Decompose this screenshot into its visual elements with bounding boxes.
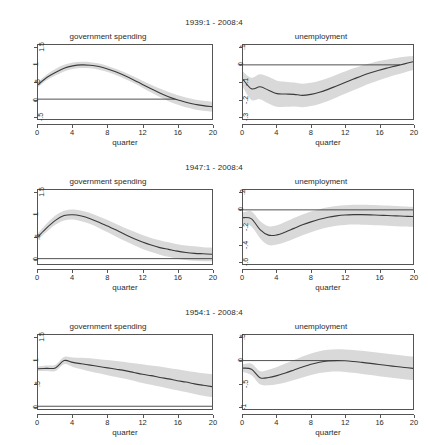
y-tick-label: 0 bbox=[32, 259, 39, 263]
x-tick-label: 20 bbox=[410, 128, 418, 137]
x-tick-label: 16 bbox=[174, 273, 182, 282]
y-tick-text: -.2 bbox=[242, 223, 249, 231]
panel-unemployment-row2: unemployment-.6-.4-.20.2048121620quarter bbox=[214, 177, 428, 297]
x-tick-label: 4 bbox=[70, 273, 74, 282]
x-tick-label: 8 bbox=[309, 128, 313, 137]
y-tick-text: -.2 bbox=[242, 95, 249, 103]
y-tick-label: 1.5 bbox=[38, 47, 45, 57]
panel-government-spending-row2: government spending0.511.5048121620quart… bbox=[0, 177, 216, 297]
plot-area bbox=[37, 189, 213, 265]
panel-government-spending-row1: government spending-.50.511.5048121620qu… bbox=[0, 32, 216, 152]
y-tick-label: 0 bbox=[237, 360, 244, 364]
y-tick-text: -.4 bbox=[242, 240, 249, 248]
y-tick-label: .5 bbox=[239, 337, 246, 343]
x-axis-line bbox=[37, 269, 213, 270]
x-tick-label: 12 bbox=[138, 273, 146, 282]
y-tick-text: 0 bbox=[237, 207, 244, 211]
plot-area bbox=[242, 189, 414, 265]
x-tick-label: 8 bbox=[105, 128, 109, 137]
x-tick-label: 16 bbox=[174, 418, 182, 427]
x-tick-label: 12 bbox=[138, 418, 146, 427]
x-axis-line bbox=[37, 124, 213, 125]
y-tick-label: .5 bbox=[34, 384, 41, 390]
x-tick-label: 16 bbox=[375, 128, 383, 137]
y-tick-text: 1.5 bbox=[38, 332, 45, 342]
y-tick-text: 0 bbox=[237, 358, 244, 362]
x-tick-label: 8 bbox=[105, 273, 109, 282]
x-tick-label: 0 bbox=[240, 418, 244, 427]
x-axis-line bbox=[37, 414, 213, 415]
confidence-band bbox=[38, 356, 212, 397]
plot-area bbox=[37, 44, 213, 120]
y-tick-text: .5 bbox=[34, 234, 41, 240]
y-tick-text: .5 bbox=[34, 381, 41, 387]
x-axis-label: quarter bbox=[315, 428, 340, 437]
y-tick-text: .2 bbox=[239, 189, 246, 195]
y-tick-text: 1.5 bbox=[38, 42, 45, 52]
panel-title: government spending bbox=[0, 177, 216, 186]
y-tick-label: .1 bbox=[239, 47, 246, 53]
sample-period-title: 1947:1 - 2008:4 bbox=[0, 163, 428, 172]
y-tick-label: 1 bbox=[32, 214, 39, 218]
x-axis-label: quarter bbox=[315, 283, 340, 292]
y-tick-text: 1 bbox=[32, 62, 39, 66]
y-tick-text: -1 bbox=[240, 404, 247, 410]
y-tick-label: -.1 bbox=[242, 82, 249, 90]
y-tick-text: .5 bbox=[34, 79, 41, 85]
x-axis-line bbox=[242, 269, 414, 270]
x-axis-label: quarter bbox=[315, 138, 340, 147]
x-axis-label: quarter bbox=[112, 428, 137, 437]
x-tick-label: 0 bbox=[240, 273, 244, 282]
panel-unemployment-row3: unemployment-1-.50.5048121620quarter bbox=[214, 322, 428, 442]
sample-period-title: 1939:1 - 2008:4 bbox=[0, 18, 428, 27]
y-tick-text: -.3 bbox=[242, 113, 249, 121]
y-tick-label: 0 bbox=[32, 100, 39, 104]
x-axis-label: quarter bbox=[112, 283, 137, 292]
x-tick-label: 8 bbox=[309, 273, 313, 282]
x-tick-label: 8 bbox=[105, 418, 109, 427]
x-tick-label: 16 bbox=[375, 418, 383, 427]
y-tick-text: 1.5 bbox=[38, 187, 45, 197]
y-tick-text: .1 bbox=[239, 44, 246, 50]
y-tick-text: 1 bbox=[32, 358, 39, 362]
chart-row-3: 1954:1 - 2008:4government spending0.511.… bbox=[0, 308, 428, 445]
y-tick-label: -1 bbox=[240, 407, 247, 413]
x-tick-label: 4 bbox=[274, 273, 278, 282]
y-tick-text: -.5 bbox=[37, 113, 44, 121]
x-axis-label: quarter bbox=[112, 138, 137, 147]
x-tick-label: 20 bbox=[410, 273, 418, 282]
y-tick-label: 1.5 bbox=[38, 337, 45, 347]
y-tick-mark bbox=[34, 337, 37, 338]
y-tick-label: .2 bbox=[239, 192, 246, 198]
y-tick-text: 0 bbox=[32, 258, 39, 262]
x-tick-label: 12 bbox=[341, 128, 349, 137]
y-tick-text: 0 bbox=[32, 98, 39, 102]
x-tick-label: 4 bbox=[70, 128, 74, 137]
confidence-band bbox=[38, 209, 212, 261]
panel-title: government spending bbox=[0, 322, 216, 331]
y-tick-label: 0 bbox=[32, 407, 39, 411]
y-tick-mark bbox=[34, 47, 37, 48]
x-axis-line bbox=[242, 414, 414, 415]
confidence-band bbox=[243, 205, 413, 246]
y-tick-text: -.6 bbox=[242, 258, 249, 266]
plot-area bbox=[37, 334, 213, 410]
x-tick-label: 12 bbox=[341, 418, 349, 427]
panel-title: government spending bbox=[0, 32, 216, 41]
y-tick-label: .5 bbox=[34, 237, 41, 243]
x-tick-label: 8 bbox=[309, 418, 313, 427]
x-tick-label: 20 bbox=[410, 418, 418, 427]
x-tick-label: 4 bbox=[274, 128, 278, 137]
y-tick-label: 1 bbox=[32, 360, 39, 364]
x-tick-label: 0 bbox=[35, 128, 39, 137]
y-tick-label: -.2 bbox=[242, 100, 249, 108]
x-tick-label: 0 bbox=[240, 128, 244, 137]
chart-row-1: 1939:1 - 2008:4government spending-.50.5… bbox=[0, 18, 428, 163]
panel-title: unemployment bbox=[214, 32, 428, 41]
y-tick-mark bbox=[34, 192, 37, 193]
chart-row-2: 1947:1 - 2008:4government spending0.511.… bbox=[0, 163, 428, 308]
y-tick-label: 0 bbox=[237, 209, 244, 213]
plot-area bbox=[242, 334, 414, 410]
panel-title: unemployment bbox=[214, 322, 428, 331]
y-tick-text: 1 bbox=[32, 212, 39, 216]
